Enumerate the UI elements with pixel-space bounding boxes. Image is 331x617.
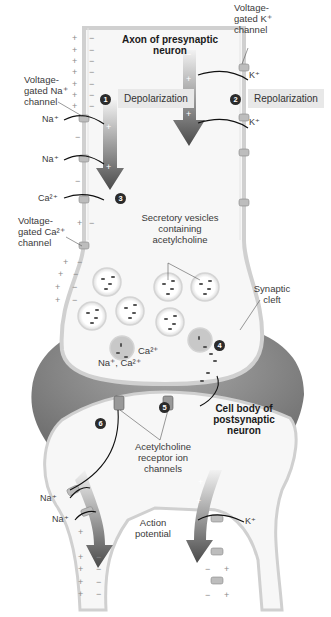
receptor-label: Acetylcholine receptor ion channels [130, 441, 196, 474]
k-ion-label-2: K⁺ [249, 117, 260, 127]
presynaptic-title: Axon of presynaptic neuron [120, 34, 220, 56]
na-ca-ions-label: Na⁺, Ca²⁺ [98, 357, 141, 368]
k-channel-label: Voltage-gated K⁺ channel [234, 2, 284, 35]
step-6-badge: 6 [95, 418, 106, 429]
vesicles-label: Secretory vesicles containing acetylchol… [140, 212, 220, 245]
action-potential-label: Action potential [130, 517, 176, 539]
ca-channel-label: Voltage-gated Ca²⁺ channel [18, 215, 68, 248]
na-ion-label-2: Na⁺ [42, 154, 59, 164]
na-ion-label-1: Na⁺ [42, 114, 59, 124]
k-ion-label-1: K⁺ [249, 70, 260, 80]
na-ion-label-3: Na⁺ [40, 493, 57, 503]
step-5-badge: 5 [159, 402, 170, 413]
step-2-badge: 2 [230, 94, 241, 105]
k-ion-label-3: K⁺ [245, 516, 256, 526]
postsynaptic-title: Cell body of postsynaptic neuron [208, 403, 280, 436]
step-4-badge: 4 [214, 340, 225, 351]
step-1-label: Depolarization [118, 89, 194, 108]
ca-ion-label-1: Ca²⁺ [38, 193, 58, 203]
synaptic-cleft-label: Synaptic cleft [250, 283, 294, 305]
step-1-badge: 1 [100, 94, 111, 105]
ca-ion-label: Ca²⁺ [138, 345, 158, 356]
step-2-label: Repolarization [248, 89, 324, 108]
na-ion-label-4: Na⁺ [52, 514, 69, 524]
step-3-badge: 3 [115, 193, 126, 204]
na-channel-label: Voltage-gated Na⁺ channel [24, 74, 74, 107]
